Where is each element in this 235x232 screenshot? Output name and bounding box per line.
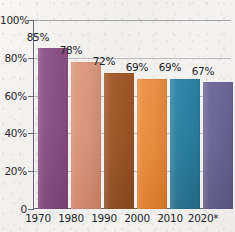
bar-2020 (203, 82, 233, 209)
bar-2000 (137, 79, 167, 209)
bar-1980 (71, 62, 101, 209)
bar-value-label-1970: 85% (15, 32, 61, 43)
y-tick-20 (28, 171, 33, 172)
y-tick-80 (28, 58, 33, 59)
y-axis-label-60: 60% (0, 91, 27, 102)
y-axis-label-40: 40% (0, 128, 27, 139)
y-axis-label-80: 80% (0, 53, 27, 64)
y-tick-60 (28, 96, 33, 97)
x-axis-label-2020: 2020* (180, 213, 226, 224)
gridline-100 (33, 20, 231, 21)
bar-2010 (170, 79, 200, 209)
y-tick-100 (28, 20, 33, 21)
y-tick-0 (28, 209, 33, 210)
bar-chart: 100% 80% 60% 40% 20% 0 85% 78% 72% 69% 6… (0, 0, 235, 232)
y-axis-label-20: 20% (0, 166, 27, 177)
bar-value-label-1980: 78% (48, 45, 94, 56)
bar-value-label-2020: 67% (180, 66, 226, 77)
y-axis-line (33, 20, 34, 210)
y-axis-label-100: 100% (0, 15, 27, 26)
bar-1990 (104, 73, 134, 209)
y-tick-40 (28, 133, 33, 134)
bar-1970 (38, 48, 68, 209)
